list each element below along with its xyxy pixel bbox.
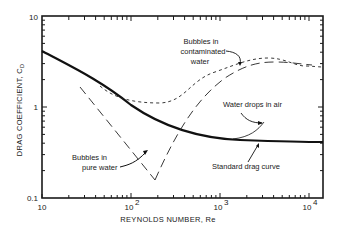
y-tick-1: 1 <box>34 103 39 112</box>
label-pure-water-line2: pure water <box>82 163 118 172</box>
x-tick-10: 10 <box>38 203 47 212</box>
x-tick-10000: 10 4 <box>303 198 318 212</box>
label-contaminated-line1: Bubbles in <box>183 37 218 46</box>
drag-coefficient-chart: 10 1 0.1 10 10 2 10 3 10 4 REYNOLDS NUMB… <box>0 0 343 233</box>
standard-arrow <box>248 145 258 162</box>
x-tick-100: 10 2 <box>125 198 140 212</box>
x-axis-title: REYNOLDS NUMBER, Re <box>120 215 215 224</box>
label-pure-water-line1: Bubbles in <box>72 153 107 162</box>
label-water-drops: Water drops in air <box>223 100 282 109</box>
svg-text:DRAG COEFFICIENT, CD: DRAG COEFFICIENT, CD <box>15 64 25 157</box>
svg-text:3: 3 <box>224 198 229 207</box>
label-standard-drag: Standard drag curve <box>212 162 280 171</box>
svg-text:10: 10 <box>125 203 134 212</box>
label-contaminated-line2: contaminated <box>180 47 225 56</box>
y-axis-title: DRAG COEFFICIENT, CD <box>15 64 25 157</box>
svg-text:2: 2 <box>135 198 140 207</box>
label-contaminated-line3: water <box>190 57 210 66</box>
y-tick-0-1: 0.1 <box>27 194 39 203</box>
contaminated-water-bubbles-curve <box>100 58 323 103</box>
standard-drag-curve <box>42 51 323 142</box>
y-tick-10: 10 <box>29 13 38 22</box>
x-tick-1000: 10 3 <box>214 198 229 212</box>
drops-pointer <box>233 122 264 139</box>
pure-water-arrow <box>120 152 146 167</box>
svg-text:4: 4 <box>313 198 318 207</box>
svg-text:10: 10 <box>214 203 223 212</box>
svg-text:10: 10 <box>303 203 312 212</box>
